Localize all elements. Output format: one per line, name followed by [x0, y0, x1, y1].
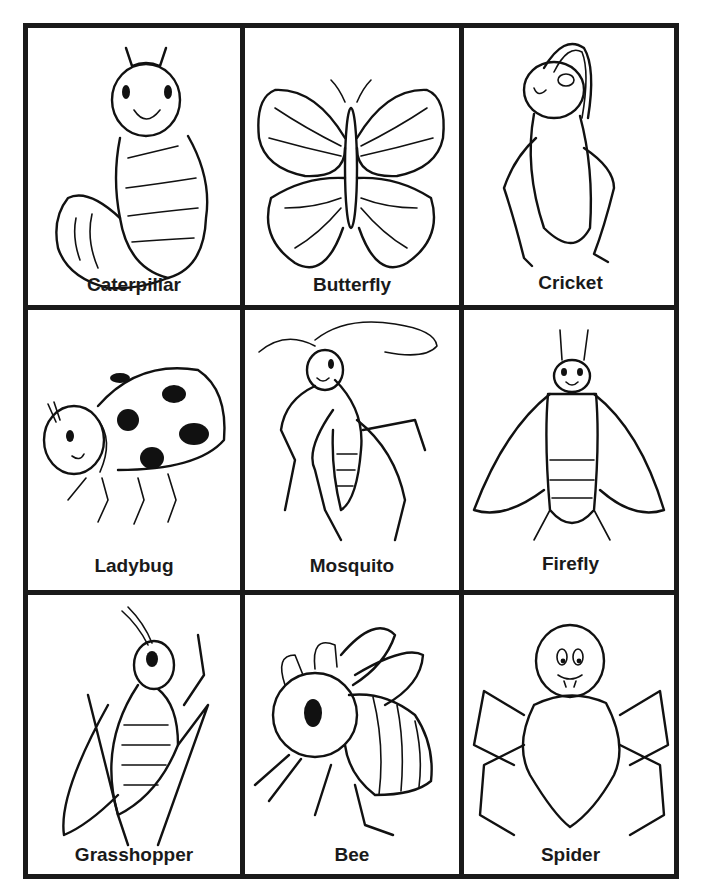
- cricket-icon: [464, 28, 677, 305]
- card-label: Butterfly: [245, 274, 459, 296]
- card-label: Firefly: [464, 553, 677, 575]
- grasshopper-icon: [28, 595, 240, 877]
- card-caterpillar: Caterpillar: [28, 28, 240, 305]
- bee-icon: [245, 595, 459, 877]
- card-cricket: Cricket: [464, 28, 677, 305]
- card-label: Mosquito: [245, 555, 459, 577]
- card-label: Bee: [245, 844, 459, 866]
- card-firefly: Firefly: [464, 310, 677, 590]
- card-grasshopper: Grasshopper: [28, 595, 240, 877]
- card-butterfly: Butterfly: [245, 28, 459, 305]
- card-label: Grasshopper: [28, 844, 240, 866]
- card-label: Caterpillar: [28, 274, 240, 296]
- caterpillar-icon: [28, 28, 240, 305]
- firefly-icon: [464, 310, 677, 590]
- card-mosquito: Mosquito: [245, 310, 459, 590]
- card-label: Cricket: [464, 272, 677, 294]
- mosquito-icon: [245, 310, 459, 590]
- spider-icon: [464, 595, 677, 877]
- card-bee: Bee: [245, 595, 459, 877]
- butterfly-icon: [245, 28, 459, 305]
- card-spider: Spider: [464, 595, 677, 877]
- card-label: Ladybug: [28, 555, 240, 577]
- ladybug-icon: [28, 310, 240, 590]
- card-ladybug: Ladybug: [28, 310, 240, 590]
- card-label: Spider: [464, 844, 677, 866]
